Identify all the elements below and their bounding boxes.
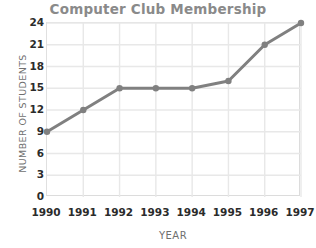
y-tick-label: 24	[18, 17, 44, 27]
x-tick-label: 1997	[280, 206, 316, 218]
data-series-members	[47, 23, 301, 197]
x-tick-label: 1996	[244, 206, 284, 218]
data-point	[189, 85, 195, 91]
x-tick-label: 1991	[62, 206, 102, 218]
data-point	[44, 129, 50, 135]
y-tick-label: 12	[18, 104, 44, 114]
y-tick-label: 15	[18, 82, 44, 92]
y-tick-label: 9	[18, 126, 44, 136]
x-tick-label: 1992	[99, 206, 139, 218]
data-point	[262, 42, 268, 48]
data-point	[153, 85, 159, 91]
y-tick-label: 21	[18, 39, 44, 49]
y-tick-label: 0	[18, 191, 44, 201]
data-point	[116, 85, 122, 91]
chart-title: Computer Club Membership	[0, 1, 316, 17]
plot-area	[46, 22, 300, 196]
x-tick-label: 1995	[207, 206, 247, 218]
y-tick-label: 3	[18, 169, 44, 179]
x-tick-label: 1990	[26, 206, 66, 218]
data-point	[225, 78, 231, 84]
x-axis-label: YEAR	[46, 230, 300, 241]
y-tick-label: 18	[18, 61, 44, 71]
x-tick-label: 1994	[171, 206, 211, 218]
chart-container: Computer Club Membership NUMBER OF STUDE…	[0, 0, 316, 248]
x-tick-label: 1993	[135, 206, 175, 218]
data-point	[80, 107, 86, 113]
y-tick-label: 6	[18, 148, 44, 158]
data-point	[298, 20, 304, 26]
